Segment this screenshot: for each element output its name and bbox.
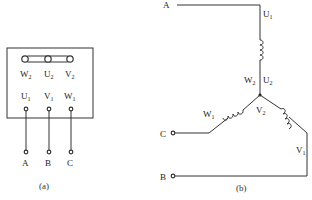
diagram-canvas: W2 U2 V2 U1 V1 W1 A B C (a) A U1 W2 U2 V… <box>0 0 312 200</box>
label-u2: U2 <box>44 69 54 80</box>
coil-u <box>260 40 263 60</box>
lead-b-terminal <box>47 150 51 154</box>
line-a-label: A <box>163 0 170 10</box>
phase-v-wire-bottom <box>289 117 307 133</box>
label-u1: U1 <box>21 91 31 102</box>
label-w1-b: W1 <box>203 109 215 120</box>
coil-v <box>281 109 291 129</box>
phase-w-wire-bottom <box>209 118 228 133</box>
caption-a: (a) <box>39 181 49 191</box>
line-b-terminal <box>171 174 175 178</box>
label-v2-b: V2 <box>256 105 266 116</box>
terminal-v2 <box>67 56 73 62</box>
terminal-u1 <box>24 107 28 111</box>
line-c-terminal <box>171 131 175 135</box>
label-v2: V2 <box>65 69 75 80</box>
label-v1-b: V1 <box>296 145 306 156</box>
lead-c-label: C <box>67 158 73 168</box>
terminal-w1 <box>69 107 73 111</box>
label-u1-b: U1 <box>263 9 273 20</box>
caption-b: (b) <box>236 183 247 193</box>
terminal-u2 <box>45 56 51 62</box>
lead-a-terminal <box>24 150 28 154</box>
label-w2-b: W2 <box>244 75 256 86</box>
line-b-label: B <box>160 172 166 182</box>
lead-a-label: A <box>22 158 29 168</box>
line-c-label: C <box>160 129 166 139</box>
coil-w <box>223 110 243 120</box>
label-w2: W2 <box>20 69 32 80</box>
panel-a: W2 U2 V2 U1 V1 W1 A B C (a) <box>7 48 93 191</box>
panel-b: A U1 W2 U2 V2 C W1 B V1 (b) <box>160 0 307 193</box>
label-w1: W1 <box>64 91 76 102</box>
lead-c-terminal <box>69 150 73 154</box>
lead-b-label: B <box>45 158 51 168</box>
label-u2-b: U2 <box>263 75 273 86</box>
phase-v-wire-top <box>260 95 281 109</box>
label-v1: V1 <box>44 91 54 102</box>
terminal-w2 <box>22 56 28 62</box>
terminal-v1 <box>47 107 51 111</box>
